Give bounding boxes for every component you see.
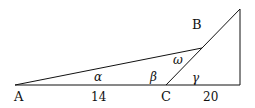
angle-gamma-label: γ xyxy=(192,71,200,85)
slant-segment-c-top xyxy=(166,9,240,85)
triangle-diagram: A B C 14 20 α β ω γ xyxy=(0,0,255,108)
label-c: C xyxy=(161,89,171,104)
angle-beta-label: β xyxy=(149,70,157,84)
length-cd-label: 20 xyxy=(203,90,218,104)
label-a: A xyxy=(13,89,24,104)
angle-alpha-label: α xyxy=(94,70,102,84)
label-b: B xyxy=(192,17,202,32)
angle-omega-label: ω xyxy=(173,53,183,67)
length-ac-label: 14 xyxy=(91,90,107,104)
